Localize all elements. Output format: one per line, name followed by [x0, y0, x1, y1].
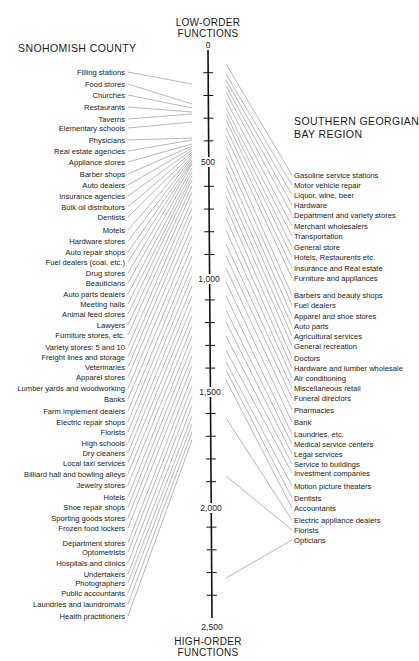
right-connector-line	[226, 350, 292, 473]
right-function-label: Laundries, etc.	[294, 430, 344, 439]
left-function-label: Public accountants	[61, 589, 125, 598]
left-function-label: Barber shops	[80, 170, 125, 179]
right-connector-line	[226, 196, 292, 346]
left-function-label: Sporting goods stores	[51, 514, 125, 523]
right-function-label: Miscellaneous retail	[294, 384, 361, 393]
left-function-label: Drug stores	[86, 269, 125, 278]
left-connector-line	[128, 246, 192, 399]
left-function-label: Apparel stores	[76, 373, 125, 382]
right-connector-line	[226, 114, 292, 247]
left-connector-line	[128, 107, 192, 112]
left-connector-line	[128, 406, 192, 574]
left-connector-line	[128, 306, 192, 463]
left-connector-line	[128, 208, 192, 357]
right-function-label: Electric appliance dealers	[294, 516, 381, 525]
right-function-label: General recreation	[294, 342, 357, 351]
right-function-label: Insurance and Real estate	[294, 264, 383, 273]
right-connector-line	[226, 476, 292, 530]
left-connector-line	[128, 346, 192, 507]
left-function-label: Jewelry stores	[76, 481, 125, 490]
left-function-label: Variety stores: 5 and 10	[45, 343, 125, 352]
left-function-label: Beauticians	[86, 279, 125, 288]
left-function-label: Taverns	[98, 115, 125, 124]
left-function-label: Hotels	[103, 493, 125, 502]
left-function-label: Filling stations	[77, 68, 125, 77]
left-connector-line	[128, 176, 192, 304]
right-function-label: Motion picture theaters	[294, 482, 371, 491]
left-connector-line	[128, 396, 192, 563]
right-function-label: Furniture and appliances	[294, 274, 378, 283]
left-connector-line	[128, 72, 192, 84]
left-function-label: Shoe repair shops	[63, 503, 125, 512]
left-function-label: Dentists	[98, 213, 125, 222]
left-function-label: Auto repair shops	[65, 248, 125, 257]
right-function-label: Motor vehicle repair	[294, 181, 361, 190]
left-function-label: Health practitioners	[60, 612, 125, 621]
right-function-label: Dentists	[294, 494, 321, 503]
left-function-label: Insurance agencies	[59, 192, 125, 201]
right-function-label: Apparel and shoe stores	[294, 312, 376, 321]
left-function-label: Farm implement dealers	[43, 407, 125, 416]
left-connector-line	[128, 416, 192, 583]
left-function-label: Local taxi services	[63, 459, 125, 468]
left-connector-line	[128, 186, 192, 325]
left-function-label: Fuel dealers (coal, etc.)	[46, 258, 125, 267]
left-function-label: Billiard hall and bowling alleys	[24, 470, 125, 479]
right-function-label: Funeral directors	[294, 394, 351, 403]
left-function-label: Banks	[104, 395, 125, 404]
left-connector-line	[128, 138, 192, 140]
right-function-label: Agricultural services	[294, 332, 362, 341]
left-function-label: Food stores	[85, 80, 125, 89]
axis-tick-2000: 2,000	[199, 503, 222, 513]
axis-tick-2500: 2,500	[200, 622, 223, 632]
left-function-label: Photographers	[75, 579, 125, 588]
right-connector-line	[226, 380, 292, 508]
left-function-label: Lawyers	[97, 321, 125, 330]
left-connector-line	[128, 122, 192, 128]
left-function-label: Bulk oil distributors	[61, 203, 125, 212]
right-function-label: Gasoline service stations	[294, 171, 378, 180]
left-function-label: Elementary schools	[59, 124, 125, 133]
right-function-label: Legal services	[294, 450, 343, 459]
left-function-label: Motels	[103, 226, 125, 235]
right-connector-line	[226, 186, 292, 336]
left-function-label: Churches	[93, 91, 126, 100]
left-function-label: Hospitals and clinics	[56, 559, 125, 568]
left-connector-line	[128, 114, 192, 119]
left-connector-line	[128, 84, 192, 104]
left-connector-line	[128, 140, 192, 151]
left-function-label: Furniture stores, etc.	[55, 331, 125, 340]
left-function-label: Florists	[101, 428, 125, 437]
left-connector-line	[128, 95, 192, 108]
left-function-label: Appliance stores	[69, 158, 125, 167]
right-function-label: Transportation	[294, 232, 343, 241]
left-function-label: Optometrists	[82, 548, 125, 557]
right-function-label: Opticians	[294, 536, 326, 545]
left-connector-line	[128, 326, 192, 485]
left-function-label: Meeting halls	[80, 300, 125, 309]
right-function-label: Bank	[294, 418, 311, 427]
right-function-label: Fuel dealers	[294, 301, 336, 310]
right-function-label: Florists	[294, 526, 318, 535]
axis-tick-0: 0	[205, 40, 212, 50]
left-connector-line	[128, 366, 192, 528]
left-function-label: Freight lines and storage	[41, 353, 125, 362]
right-function-label: Medical service centers	[294, 440, 373, 449]
right-function-label: Liquor, wine, beer	[294, 191, 354, 200]
left-connector-line	[128, 150, 192, 196]
left-function-label: Auto parts dealers	[63, 290, 125, 299]
right-connector-line	[226, 108, 292, 236]
right-connector-line	[226, 86, 292, 205]
left-function-label: Frozen food lockers	[58, 524, 125, 533]
axis-tick-1000: 1,000	[197, 274, 220, 284]
left-connector-line	[128, 424, 192, 593]
right-function-label: Doctors	[294, 354, 320, 363]
right-function-label: Hardware	[294, 201, 327, 210]
axis-line	[208, 50, 212, 618]
right-function-label: General store	[294, 243, 340, 252]
left-function-label: Electric repair shops	[56, 418, 125, 427]
left-connector-line	[128, 256, 192, 411]
left-connector-line	[128, 192, 192, 335]
right-function-label: Hotels, Restaurents etc.	[294, 253, 375, 262]
left-connector-line	[128, 356, 192, 518]
